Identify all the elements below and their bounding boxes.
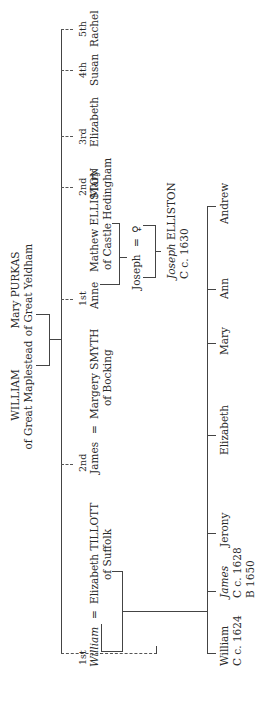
drop-child-mary [207,343,216,344]
spouse-tillott-place: of Suffolk [101,529,113,580]
spouse-smyth-place: of Bocking [101,349,113,406]
child-ann: Ann [218,278,230,299]
drop-child-andrew [207,206,216,207]
drop-child-james [207,591,216,592]
sibling-bar [61,30,62,654]
grandchild-joseph-surname: ELLISTON [165,182,177,240]
name-mary: Mary [88,170,100,198]
drop-susan [61,70,73,71]
drop-foot-william [156,646,157,654]
name-anne: Anne [88,282,100,309]
child-jerony: Jerony [218,513,230,547]
mother-drop-line [36,314,50,315]
mathew-drop [112,223,120,224]
drop-elizabeth [61,136,73,137]
anne-mathew-join [119,223,120,285]
drop-child-william [207,653,216,654]
parents-join-line [49,314,50,366]
family-tree-diagram: WILLIAM of Great Maplestead Mary PURKAS … [0,0,266,702]
name-rachel: Rachel [88,10,100,47]
name-elizabeth: Elizabeth [88,97,100,147]
child-elizabeth: Elizabeth [218,405,230,455]
drop-child-jerony [207,533,216,534]
name-william: William [88,627,100,667]
drop-child-ann [207,289,216,290]
tick [100,653,101,654]
drop-mary [61,187,73,188]
grandchild-joseph-name: Joseph [165,243,177,279]
child-mary: Mary [218,327,230,355]
female-symbol: ♀ [130,225,142,233]
father-name: WILLIAM [9,369,21,420]
grandchild-joseph: Joseph ELLISTON [165,182,177,279]
father-place: of Great Maplestead [22,340,34,449]
child-william-note: C c. 1624 [231,615,243,666]
anne-drop [100,284,119,285]
spouse-tillott: Elizabeth TILLOTT [88,503,100,604]
mother-place: of Great Yeldham [22,244,34,336]
child-james-note2: B 1650 [244,560,256,598]
drop-anne [61,299,73,300]
eq-james: = [88,425,100,434]
drop-child-elizabeth [207,435,216,436]
child-william: William [218,626,230,666]
eq-william: = [88,610,100,619]
grandchild-joseph-note: C c. 1630 [178,228,190,279]
spouse-smyth: Margery SMYTH [88,329,100,419]
drop-james [61,464,73,465]
female-drop [143,225,156,226]
child-andrew: Andrew [218,183,230,224]
drop-rachel [61,29,73,30]
anne-children-descent [119,257,127,258]
name-susan: Susan [88,54,100,86]
spouse-elliston-place: of Castle Hedingham [101,158,113,270]
drop-william-1 [61,653,157,654]
mother-name: Mary PURKAS [9,251,21,328]
william-children-descent [122,611,207,612]
child-james: James [218,566,230,598]
name-joseph: Joseph [130,254,142,290]
parents-descent-line [49,339,61,340]
joseph-children-descent [155,251,161,252]
name-james: James [88,442,100,474]
william-bracket-vr [112,571,123,572]
eq-joseph: = [130,238,142,247]
william-bracket-left [101,624,102,652]
william-children-bar [207,207,208,654]
william-bracket-vl [101,651,123,652]
child-james-note1: C c. 1628 [231,547,243,598]
father-drop-line [36,365,50,366]
